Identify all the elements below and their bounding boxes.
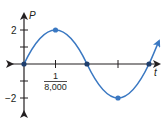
x-axis-label: t — [154, 67, 158, 78]
sine-graph: P t 2 −2 1 8,000 — [0, 0, 163, 119]
x-tick-label-numerator: 1 — [53, 71, 58, 81]
y-tick-label-min: −2 — [5, 93, 17, 104]
y-axis-label: P — [29, 10, 36, 21]
y-tick-label-max: 2 — [11, 25, 17, 36]
x-tick-label-denominator: 8,000 — [44, 82, 67, 92]
